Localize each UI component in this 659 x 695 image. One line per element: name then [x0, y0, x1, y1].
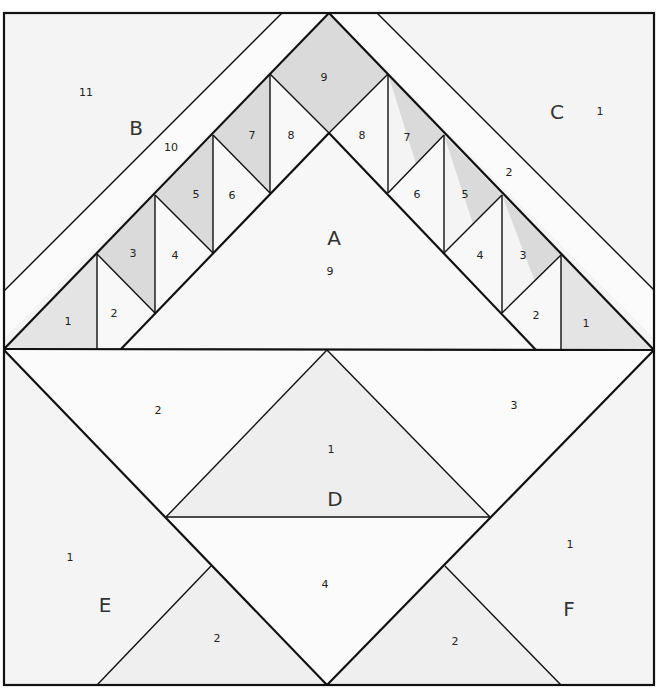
section-label-A: A — [327, 226, 341, 250]
label-B10: 10 — [164, 141, 178, 154]
label-F1: 1 — [567, 538, 574, 551]
label-C8: 8 — [359, 129, 366, 142]
label-C4: 4 — [477, 249, 484, 262]
label-D2: 2 — [155, 404, 162, 417]
section-label-D: D — [327, 487, 342, 511]
label-A9: 9 — [327, 265, 334, 278]
label-C1: 1 — [597, 105, 604, 118]
label-C2-small: 2 — [533, 309, 540, 322]
label-B3: 3 — [130, 247, 137, 260]
quilt-pattern-diagram: 11 B 10 1 2 3 4 5 6 7 8 9 A 9 C 1 2 8 7 … — [0, 0, 659, 695]
section-label-B: B — [129, 116, 143, 140]
label-B7: 7 — [249, 129, 256, 142]
label-C7: 7 — [404, 131, 411, 144]
section-label-E: E — [99, 593, 112, 617]
label-B9: 9 — [321, 71, 328, 84]
label-D1: 1 — [328, 443, 335, 456]
label-D3: 3 — [511, 399, 518, 412]
label-C2: 2 — [506, 166, 513, 179]
label-E1: 1 — [67, 551, 74, 564]
section-label-F: F — [563, 597, 575, 621]
label-B8: 8 — [288, 129, 295, 142]
label-B11: 11 — [79, 86, 93, 99]
label-C6: 6 — [414, 188, 421, 201]
section-label-C: C — [550, 100, 564, 124]
label-E2: 2 — [214, 632, 221, 645]
label-B1: 1 — [65, 315, 72, 328]
label-D4: 4 — [322, 578, 329, 591]
label-C1-small: 1 — [583, 317, 590, 330]
label-B2: 2 — [111, 307, 118, 320]
label-B6: 6 — [229, 189, 236, 202]
label-F2: 2 — [452, 635, 459, 648]
label-C3: 3 — [520, 249, 527, 262]
label-B4: 4 — [172, 249, 179, 262]
label-B5: 5 — [193, 188, 200, 201]
label-C5: 5 — [462, 188, 469, 201]
